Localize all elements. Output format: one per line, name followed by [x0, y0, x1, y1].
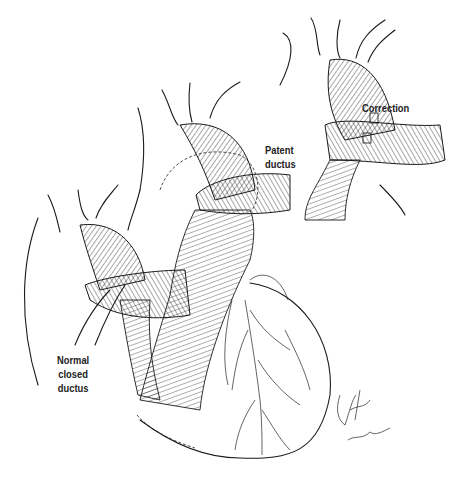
label-normal-line2: closed: [57, 367, 89, 381]
artist-signature: [338, 390, 390, 440]
line-art-illustration: [0, 0, 456, 479]
coronary-vessels: [225, 275, 310, 455]
correction-panel: [280, 18, 445, 220]
heart-diagram: Correction Patent ductus Normal closed d…: [0, 0, 456, 479]
label-patent-line2: ductus: [265, 157, 296, 171]
label-patent-ductus: Patent ductus: [265, 143, 296, 171]
label-patent-line1: Patent: [265, 143, 296, 157]
label-normal-line3: ductus: [57, 381, 89, 395]
label-normal-closed-ductus: Normal closed ductus: [57, 353, 89, 395]
label-normal-line1: Normal: [57, 353, 89, 367]
label-correction: Correction: [362, 101, 409, 115]
